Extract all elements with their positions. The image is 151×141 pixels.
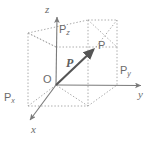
z-axis-label: z: [45, 4, 49, 15]
box-edge-bottom-left: [28, 85, 56, 106]
point-px-label: Px: [4, 92, 15, 103]
point-px-subscript: x: [11, 97, 15, 104]
figure-3d-vector-diagram: z y x O P P Pz Py Px: [0, 0, 151, 141]
guide-base-projection-line: [56, 85, 88, 106]
origin-label: O: [43, 74, 52, 85]
point-p-label: P: [98, 40, 105, 51]
y-axis-label: y: [138, 89, 143, 100]
box-edge-top-back: [28, 20, 88, 33]
point-py-subscript: y: [127, 70, 131, 77]
vector-p-label: P: [66, 57, 73, 69]
point-py-label: Py: [120, 65, 131, 76]
guide-origin-to-top-back-left: [28, 33, 56, 47]
y-axis-line: [56, 85, 141, 86]
point-pz-label: Pz: [59, 24, 70, 35]
x-axis-label: x: [31, 124, 36, 135]
z-axis-line: [56, 17, 57, 85]
x-axis-line: [30, 85, 56, 120]
point-pz-subscript: z: [66, 29, 70, 36]
box-edge-bottom-right: [88, 85, 117, 106]
